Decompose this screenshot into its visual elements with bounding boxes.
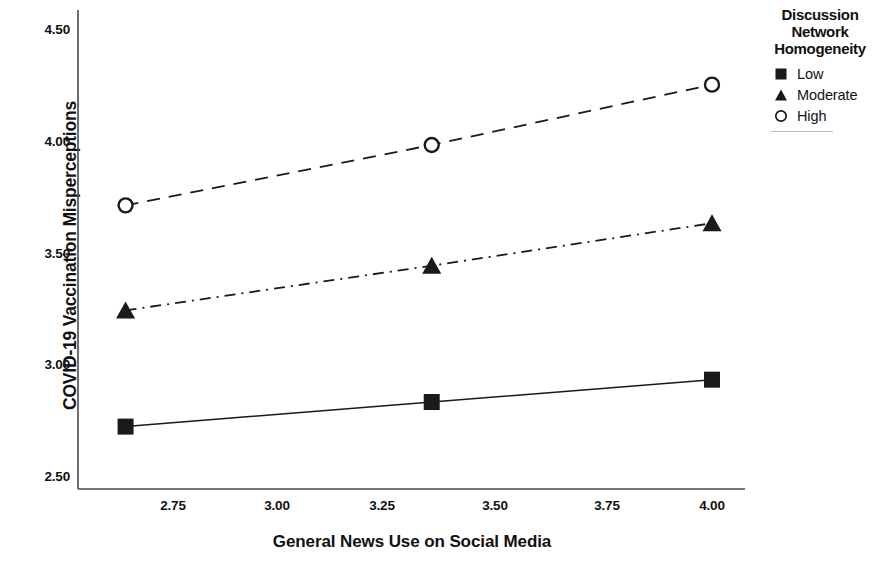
series-line-high (126, 85, 712, 206)
series-low (118, 372, 720, 435)
legend-items: Low Moderate High (757, 63, 883, 132)
open-circle-icon (769, 105, 793, 126)
data-point-moderate-2[interactable] (703, 214, 722, 231)
data-point-low-0[interactable] (118, 419, 134, 435)
data-point-low-2[interactable] (704, 372, 720, 388)
plot-area (0, 0, 885, 564)
legend: Discussion Network Homogeneity Low Moder… (757, 6, 883, 132)
data-point-high-1[interactable] (425, 138, 439, 152)
axis-lines (78, 10, 745, 489)
legend-item-low[interactable]: Low (769, 63, 883, 84)
series-line-moderate (126, 223, 712, 310)
legend-separator (771, 131, 833, 132)
data-series-group (116, 78, 721, 435)
data-point-high-2[interactable] (705, 78, 719, 92)
data-point-high-0[interactable] (119, 198, 133, 212)
legend-label-low: Low (797, 66, 823, 82)
series-moderate (116, 214, 721, 318)
data-point-low-1[interactable] (424, 394, 440, 410)
series-high (119, 78, 719, 213)
legend-label-high: High (797, 108, 826, 124)
data-point-moderate-1[interactable] (422, 257, 441, 274)
legend-label-moderate: Moderate (797, 87, 857, 103)
legend-title: Discussion Network Homogeneity (757, 6, 883, 57)
filled-triangle-icon (769, 84, 793, 105)
series-line-low (126, 380, 712, 427)
legend-item-high[interactable]: High (769, 105, 883, 126)
filled-square-icon (769, 63, 793, 84)
chart-figure: COVID-19 Vaccination Misperceptions 4.50… (0, 0, 885, 564)
legend-item-moderate[interactable]: Moderate (769, 84, 883, 105)
